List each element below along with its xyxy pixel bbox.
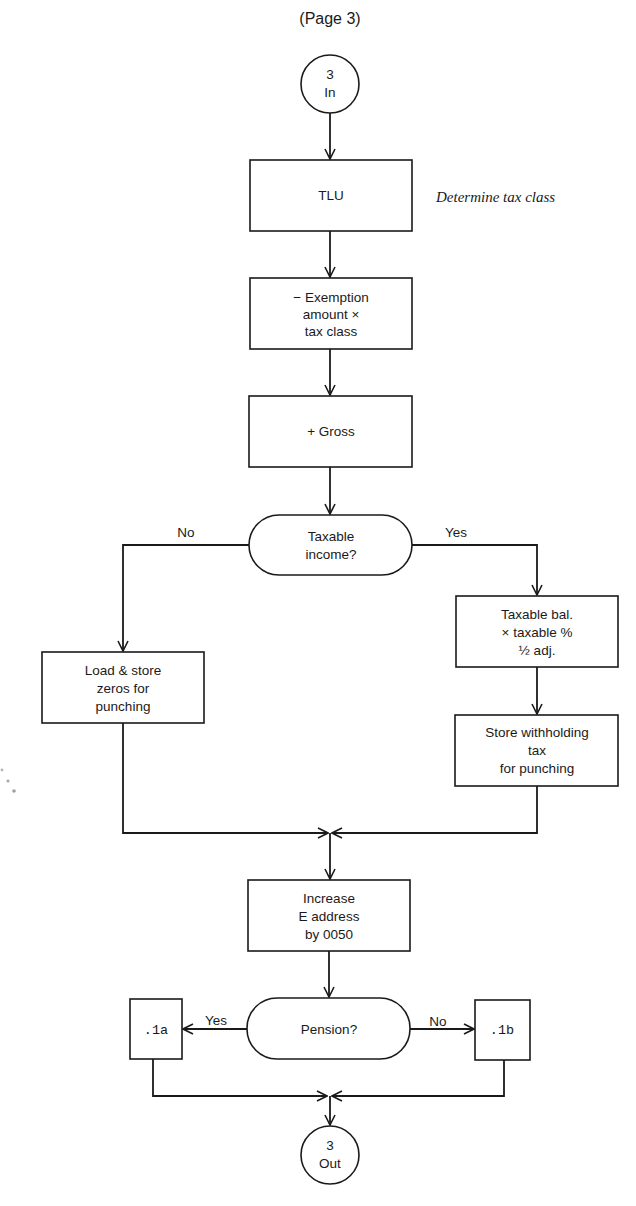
taxable-balance-line-1: Taxable bal. xyxy=(501,607,573,622)
load-zeros-line-1: Load & store xyxy=(85,663,162,678)
start-connector-number: 3 xyxy=(326,67,334,82)
load-zeros-line-3: punching xyxy=(96,699,151,714)
page-title: (Page 3) xyxy=(299,10,360,27)
flowchart-canvas: (Page 3) 3 In TLU Determine tax class − … xyxy=(0,0,636,1206)
increase-address-line-1: Increase xyxy=(303,891,355,906)
end-connector-label: Out xyxy=(319,1156,341,1171)
store-withholding-line-2: tax xyxy=(528,743,546,758)
gross-box: + Gross xyxy=(249,396,412,467)
branch-1a-label: .1a xyxy=(144,1023,168,1038)
store-withholding-line-1: Store withholding xyxy=(485,725,589,740)
pension-label: Pension? xyxy=(301,1022,357,1037)
end-connector-number: 3 xyxy=(326,1138,334,1153)
store-withholding-box: Store withholding tax for punching xyxy=(455,715,618,786)
gross-label: + Gross xyxy=(307,424,355,439)
arrow-1b-to-merge xyxy=(332,1060,504,1096)
taxable-no-label: No xyxy=(177,525,194,540)
arrow-taxable-no-to-load xyxy=(123,545,249,651)
pension-decision: Pension? xyxy=(247,998,410,1059)
taxable-balance-line-2: × taxable % xyxy=(502,625,573,640)
taxable-balance-line-3: ½ adj. xyxy=(519,643,556,658)
increase-address-line-3: by 0050 xyxy=(305,927,353,942)
arrow-1a-to-merge xyxy=(153,1059,327,1096)
taxable-balance-box: Taxable bal. × taxable % ½ adj. xyxy=(456,596,618,667)
load-zeros-line-2: zeros for xyxy=(97,681,150,696)
tlu-label: TLU xyxy=(318,188,344,203)
pension-no-label: No xyxy=(429,1014,446,1029)
exemption-box: − Exemption amount × tax class xyxy=(250,278,412,349)
exemption-line-3: tax class xyxy=(305,324,358,339)
branch-1b-box: .1b xyxy=(475,1000,530,1060)
branch-1a-box: .1a xyxy=(130,999,182,1059)
scan-speck xyxy=(1,769,16,793)
branch-1b-label: .1b xyxy=(490,1023,514,1038)
arrow-load-to-merge xyxy=(123,723,328,833)
tlu-box: TLU xyxy=(250,160,412,231)
exemption-line-2: amount × xyxy=(303,307,360,322)
increase-address-box: Increase E address by 0050 xyxy=(248,880,410,951)
arrow-taxable-yes-to-balance xyxy=(412,545,537,595)
taxable-decision-line-1: Taxable xyxy=(308,529,355,544)
taxable-yes-label: Yes xyxy=(445,525,467,540)
taxable-income-decision: Taxable income? xyxy=(249,515,412,575)
load-zeros-box: Load & store zeros for punching xyxy=(42,652,204,723)
arrow-withholding-to-merge xyxy=(332,786,537,833)
increase-address-line-2: E address xyxy=(299,909,360,924)
tlu-annotation: Determine tax class xyxy=(435,189,555,205)
pension-yes-label: Yes xyxy=(205,1013,227,1028)
store-withholding-line-3: for punching xyxy=(500,761,574,776)
exemption-line-1: − Exemption xyxy=(293,290,368,305)
start-connector: 3 In xyxy=(301,55,359,113)
start-connector-label: In xyxy=(324,85,335,100)
end-connector: 3 Out xyxy=(301,1126,359,1184)
taxable-decision-line-2: income? xyxy=(305,547,356,562)
